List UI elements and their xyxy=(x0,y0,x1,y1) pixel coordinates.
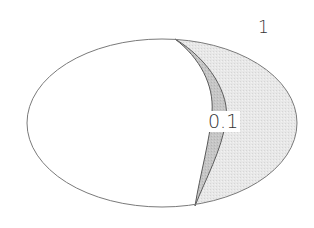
label-outer-value: 1 xyxy=(258,19,269,36)
label-inner-value: 0.1 xyxy=(206,111,240,132)
